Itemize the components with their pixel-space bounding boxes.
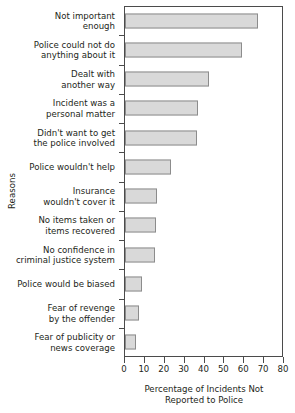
x-axis-tick	[243, 357, 244, 363]
category-label-line: another way	[0, 79, 115, 89]
category-label: No items taken oritems recovered	[0, 215, 115, 236]
category-label-line: No confidence in	[0, 244, 115, 254]
category-label-line: Fear of publicity or	[0, 332, 115, 342]
category-label: Not importantenough	[0, 10, 115, 31]
bar	[125, 159, 171, 174]
x-axis-tick	[164, 357, 165, 363]
bar	[125, 306, 139, 321]
bar-row: No confidence incriminal justice system	[0, 240, 295, 269]
y-axis-tick	[119, 35, 125, 36]
x-axis-ticks: 01020304050607080	[0, 357, 295, 381]
category-label-line: Insurance	[0, 186, 115, 196]
category-label-line: enough	[0, 21, 115, 31]
y-axis-tick	[119, 152, 125, 153]
category-label-line: Fear of revenge	[0, 303, 115, 313]
category-label: Police could not doanything about it	[0, 39, 115, 60]
category-label: Fear of revengeby the offender	[0, 303, 115, 324]
bar	[125, 247, 155, 262]
category-label: Police would be biased	[0, 279, 115, 289]
x-axis-title-line: Percentage of Incidents Not	[114, 384, 294, 395]
category-label-line: wouldn't cover it	[0, 196, 115, 206]
category-label-line: Dealt with	[0, 69, 115, 79]
category-label-line: anything about it	[0, 50, 115, 60]
category-label-line: the police involved	[0, 138, 115, 148]
bar	[125, 276, 142, 291]
bar-row: Insurancewouldn't cover it	[0, 182, 295, 211]
category-label-line: by the offender	[0, 313, 115, 323]
bar-row: Police wouldn't help	[0, 152, 295, 181]
bar	[125, 101, 198, 116]
category-label: Insurancewouldn't cover it	[0, 186, 115, 207]
bar	[125, 335, 136, 350]
y-axis-tick	[119, 328, 125, 329]
category-label-line: personal matter	[0, 108, 115, 118]
category-label-line: Police wouldn't help	[0, 162, 115, 172]
bar-rows: Not importantenoughPolice could not doan…	[0, 6, 295, 357]
category-label-line: Incident was a	[0, 98, 115, 108]
bar	[125, 72, 209, 87]
bar	[125, 189, 157, 204]
bar-row: No items taken oritems recovered	[0, 211, 295, 240]
category-label: No confidence incriminal justice system	[0, 244, 115, 265]
bar-row: Fear of publicity ornews coverage	[0, 328, 295, 357]
bar-row: Police would be biased	[0, 269, 295, 298]
bar-row: Fear of revengeby the offender	[0, 299, 295, 328]
y-axis-tick	[119, 269, 125, 270]
y-axis-tick	[119, 240, 125, 241]
bar-row: Incident was apersonal matter	[0, 94, 295, 123]
x-axis-tick	[204, 357, 205, 363]
x-axis-title-line: Reported to Police	[114, 395, 294, 406]
y-axis-tick	[119, 123, 125, 124]
category-label-line: No items taken or	[0, 215, 115, 225]
category-label: Dealt withanother way	[0, 69, 115, 90]
bar	[125, 13, 258, 28]
category-label-line: Didn't want to get	[0, 127, 115, 137]
x-axis-tick	[223, 357, 224, 363]
x-axis-tick	[283, 357, 284, 363]
category-label: Police wouldn't help	[0, 162, 115, 172]
category-label: Incident was apersonal matter	[0, 98, 115, 119]
x-axis-tick	[184, 357, 185, 363]
category-label-line: Police could not do	[0, 39, 115, 49]
category-label: Fear of publicity ornews coverage	[0, 332, 115, 353]
y-axis-tick	[119, 211, 125, 212]
bar-row: Police could not doanything about it	[0, 35, 295, 64]
y-axis-tick	[119, 182, 125, 183]
category-label-line: Police would be biased	[0, 279, 115, 289]
bar-row: Dealt withanother way	[0, 65, 295, 94]
y-axis-tick	[119, 94, 125, 95]
x-axis-tick-label: 80	[268, 364, 295, 374]
bar	[125, 42, 242, 57]
bar-row: Not importantenough	[0, 6, 295, 35]
y-axis-tick	[119, 299, 125, 300]
category-label-line: criminal justice system	[0, 255, 115, 265]
category-label-line: news coverage	[0, 342, 115, 352]
bar-row: Didn't want to getthe police involved	[0, 123, 295, 152]
x-axis-tick	[144, 357, 145, 363]
category-label-line: Not important	[0, 10, 115, 20]
x-axis-tick	[263, 357, 264, 363]
x-axis-tick	[124, 357, 125, 363]
category-label-line: items recovered	[0, 225, 115, 235]
y-axis-tick	[119, 65, 125, 66]
bar	[125, 218, 156, 233]
x-axis-title: Percentage of Incidents NotReported to P…	[114, 384, 294, 406]
category-label: Didn't want to getthe police involved	[0, 127, 115, 148]
bar-chart: Reasons Not importantenoughPolice could …	[0, 0, 295, 413]
bar	[125, 130, 197, 145]
